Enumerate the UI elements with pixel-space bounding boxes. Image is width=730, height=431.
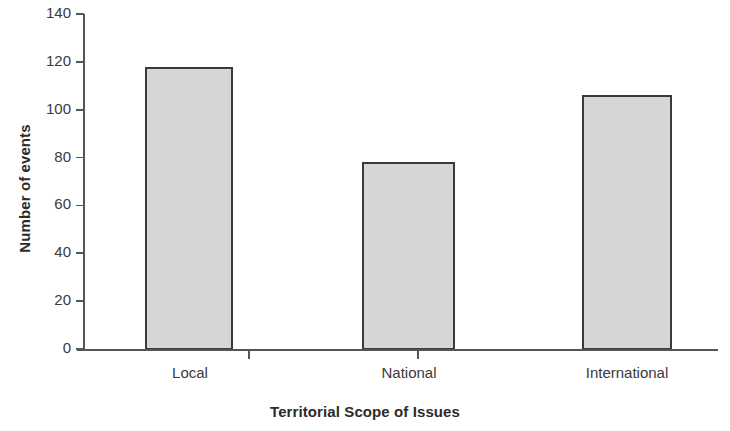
- y-axis-tick: [76, 205, 84, 207]
- y-axis-tick: [76, 61, 84, 63]
- bar-chart: Number of events 020406080100120140 Loca…: [0, 0, 730, 431]
- y-axis-tick-label: 40: [0, 243, 71, 260]
- y-axis-tick-label: 140: [0, 4, 71, 21]
- x-axis-category-label: National: [329, 364, 489, 381]
- x-axis-tick: [248, 350, 250, 359]
- x-axis-category-label: Local: [110, 364, 270, 381]
- y-axis-tick: [76, 300, 84, 302]
- y-axis-tick: [76, 13, 84, 15]
- y-axis-tick-label: 60: [0, 195, 71, 212]
- x-axis-title: Territorial Scope of Issues: [0, 403, 730, 420]
- x-axis-line: [77, 349, 718, 351]
- x-axis-tick: [417, 350, 419, 359]
- x-axis-category-label: International: [547, 364, 707, 381]
- y-axis-tick-label: 0: [0, 339, 71, 356]
- y-axis-tick-label: 80: [0, 148, 71, 165]
- y-axis-tick-label: 20: [0, 291, 71, 308]
- y-axis-tick-label: 120: [0, 52, 71, 69]
- bar-local: [145, 67, 233, 350]
- y-axis-tick: [76, 157, 84, 159]
- y-axis-tick-label: 100: [0, 100, 71, 117]
- y-axis-tick: [76, 252, 84, 254]
- bar-international: [582, 95, 672, 350]
- y-axis-tick: [76, 109, 84, 111]
- bar-national: [362, 162, 455, 350]
